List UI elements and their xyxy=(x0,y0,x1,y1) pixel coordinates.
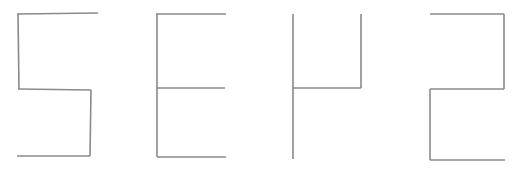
s-upper-left-stem xyxy=(18,14,19,89)
s-top-bar xyxy=(17,13,98,14)
s-lower-right-stem xyxy=(90,90,91,156)
s-middle-bar xyxy=(18,89,91,90)
glyph-stroke-canvas xyxy=(0,0,519,176)
drawing-canvas xyxy=(0,0,519,176)
canvas-background xyxy=(0,0,519,176)
